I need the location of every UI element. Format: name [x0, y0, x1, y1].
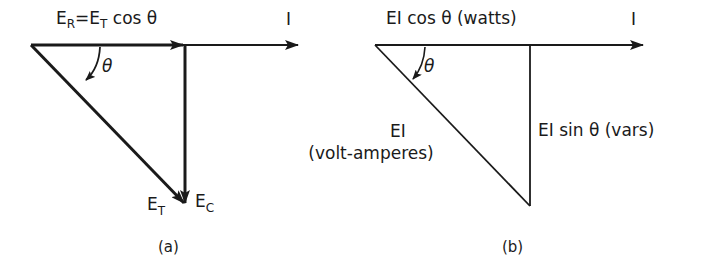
angle-arc [86, 47, 100, 80]
phasor-diagrams: ER=ET cos θ I θ ET EC (a) EI cos θ (watt… [0, 0, 706, 271]
theta-label: θ [424, 56, 435, 76]
diagram-b: EI cos θ (watts) I θ EI (volt-amperes) E… [308, 8, 654, 256]
ec-label: EC [195, 191, 214, 215]
et-label: ET [147, 194, 166, 218]
caption-a: (a) [158, 238, 179, 256]
current-label: I [631, 9, 636, 29]
er-label: ER=ET cos θ [56, 8, 157, 31]
caption-b: (b) [502, 238, 523, 256]
current-label: I [286, 9, 291, 29]
diagram-a: ER=ET cos θ I θ ET EC (a) [31, 8, 298, 256]
vars-label: EI sin θ (vars) [538, 120, 654, 140]
va-label-line2: (volt-amperes) [308, 143, 433, 163]
theta-label: θ [102, 56, 113, 76]
va-label-line1: EI [390, 121, 406, 141]
watts-label: EI cos θ (watts) [386, 8, 517, 28]
